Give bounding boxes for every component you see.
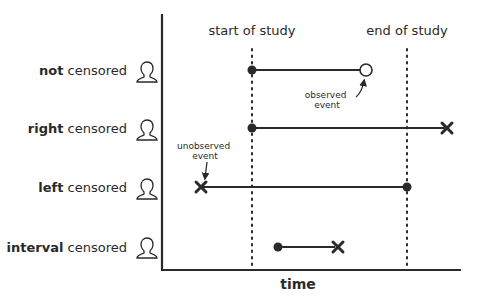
person-icon (137, 238, 157, 258)
unobserved-event-label: unobserved event (177, 141, 233, 161)
timeline-interval-censored (274, 242, 344, 252)
timeline-not-censored (248, 64, 373, 76)
row-label-left-censored: left censored (38, 180, 127, 195)
observed-event-label: observed event (305, 90, 350, 110)
start-dot (274, 243, 283, 252)
start-dot (248, 66, 257, 75)
person-icon (137, 62, 157, 82)
observed-event-arrow (356, 81, 364, 97)
unobserved-event-arrow (205, 162, 207, 178)
person-icon (137, 179, 157, 199)
start-dot (248, 124, 257, 133)
timeline-left-censored (196, 182, 412, 192)
start-of-study-label: start of study (208, 23, 295, 38)
end-dot (403, 183, 412, 192)
x-axis-label: time (280, 276, 316, 292)
row-label-interval-censored: interval censored (7, 240, 127, 255)
observed-event-circle (360, 64, 372, 76)
row-label-right-censored: right censored (28, 121, 127, 136)
person-icon (137, 120, 157, 140)
end-of-study-label: end of study (366, 23, 448, 38)
row-label-not-censored: not censored (39, 63, 127, 78)
timeline-right-censored (248, 123, 453, 133)
censoring-diagram: start of study end of study not censored… (0, 0, 484, 305)
